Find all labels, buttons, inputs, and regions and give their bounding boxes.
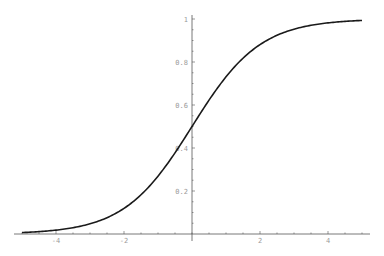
x-tick-label: -4 [52,237,60,245]
y-tick-label: 1 [184,16,188,24]
x-tick-label: 4 [326,237,330,245]
sigmoid-chart: -4-2240.20.40.60.81 [0,0,384,256]
tick-labels: -4-2240.20.40.60.81 [52,16,330,246]
x-tick-label: -2 [120,237,128,245]
y-tick-label: 0.2 [175,188,188,196]
y-tick-label: 0.6 [175,102,188,110]
axes [14,15,370,241]
x-tick-label: 2 [258,237,262,245]
y-tick-label: 0.8 [175,59,188,67]
